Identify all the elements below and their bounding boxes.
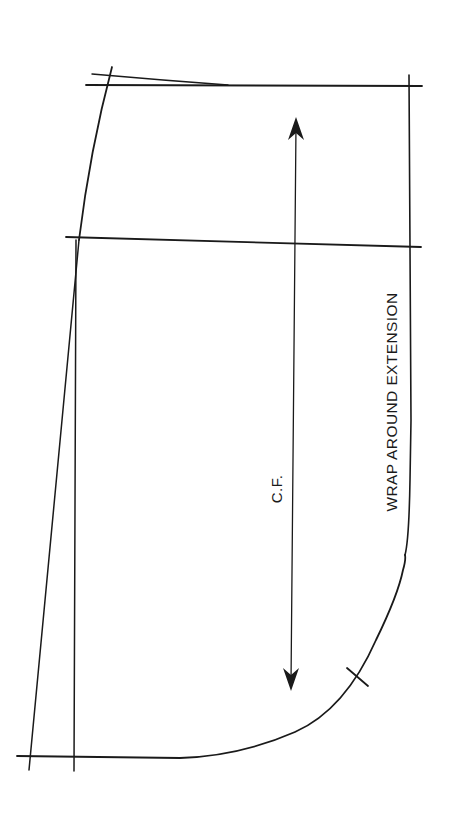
hip-line <box>66 237 421 247</box>
side-seam-curve <box>79 67 112 240</box>
waist-curve-line <box>92 74 228 85</box>
top-edge-line <box>86 85 422 86</box>
grainline-arrow-shaft <box>291 125 296 684</box>
wrap-around-extension-label: WRAP AROUND EXTENSION <box>383 257 401 547</box>
center-front-label: C.F. <box>268 468 286 510</box>
straight-side-line <box>74 240 76 771</box>
pattern-diagram: C.F. WRAP AROUND EXTENSION <box>0 0 453 818</box>
front-edge-line <box>405 75 411 555</box>
notch-mark <box>347 668 368 686</box>
flared-side-seam <box>29 240 79 770</box>
